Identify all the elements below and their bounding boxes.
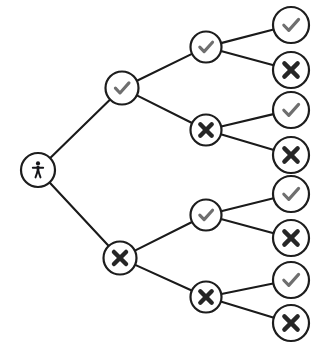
tree-edge — [220, 114, 274, 127]
tree-canvas: personcheckcrosscheckcrosscheckcrosschec… — [0, 0, 326, 360]
tree-edge — [220, 283, 274, 294]
node-circle — [273, 92, 309, 128]
tree-edge — [136, 95, 193, 124]
node-circle — [106, 72, 139, 105]
tree-node-n-ccc[interactable]: check — [273, 7, 309, 43]
tree-node-n-x[interactable]: cross — [104, 242, 137, 275]
tree-node-n-c[interactable]: check — [106, 72, 139, 105]
tree-node-n-xx[interactable]: cross — [191, 282, 222, 313]
tree-edge — [134, 264, 193, 291]
edge-layer — [49, 29, 275, 318]
tree-edge — [220, 134, 275, 150]
node-circle — [273, 262, 309, 298]
node-circle — [191, 32, 222, 63]
node-layer: personcheckcrosscheckcrosscheckcrosschec… — [21, 7, 309, 341]
tree-edge — [136, 53, 193, 81]
tree-edge — [220, 198, 274, 211]
tree-node-n-xxc[interactable]: check — [273, 262, 309, 298]
decision-tree-diagram: personcheckcrosscheckcrosscheckcrosschec… — [0, 0, 326, 360]
tree-node-n-xc[interactable]: check — [191, 200, 222, 231]
tree-edge — [220, 219, 275, 234]
tree-node-n-cxx[interactable]: cross — [273, 137, 309, 173]
tree-node-root[interactable]: person — [21, 153, 55, 187]
tree-node-n-cx[interactable]: cross — [191, 115, 222, 146]
tree-node-n-xxx[interactable]: cross — [273, 305, 309, 341]
tree-edge — [220, 51, 275, 66]
node-circle — [273, 7, 309, 43]
tree-node-n-xcx[interactable]: cross — [273, 220, 309, 256]
tree-edge — [220, 29, 275, 43]
node-circle — [191, 200, 222, 231]
tree-node-n-cc[interactable]: check — [191, 32, 222, 63]
tree-node-n-cxc[interactable]: check — [273, 92, 309, 128]
tree-edge — [49, 182, 110, 247]
node-circle — [273, 176, 309, 212]
tree-edge — [220, 301, 275, 318]
tree-edge — [134, 221, 193, 251]
tree-node-n-ccx[interactable]: cross — [273, 52, 309, 88]
tree-node-n-xcc[interactable]: check — [273, 176, 309, 212]
tree-edge — [49, 99, 110, 159]
